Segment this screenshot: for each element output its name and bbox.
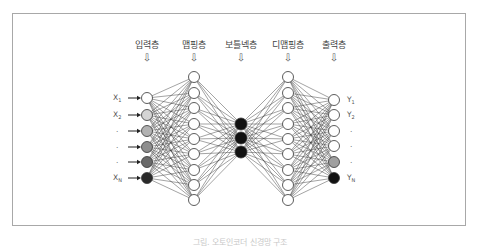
bottleneck-node [235, 146, 247, 158]
output-node [329, 95, 340, 106]
figure-caption: 그림. 오토인코더 신경망 구조 [0, 236, 480, 247]
output-label: · [350, 127, 352, 136]
bottleneck-node [235, 132, 247, 144]
layer-label-bottleneck: 보틀넥층 [225, 38, 257, 51]
mapping-node [189, 180, 200, 191]
input-label: · [116, 143, 118, 152]
down-arrow-icon: ⇩ [284, 53, 292, 63]
demapping-node [283, 119, 294, 130]
input-node [142, 173, 153, 184]
mapping-node [189, 88, 200, 99]
mapping-node [189, 119, 200, 130]
input-node [142, 157, 153, 168]
demapping-node [283, 72, 294, 83]
output-node [329, 173, 340, 184]
output-label: Y2 [347, 110, 355, 121]
output-node [329, 126, 340, 137]
down-arrow-icon: ⇩ [330, 53, 338, 63]
demapping-node [283, 165, 294, 176]
input-arrows [128, 96, 141, 180]
input-label: X1 [113, 93, 121, 104]
mapping-node [189, 103, 200, 114]
layer-label-demapping: 디맵핑층 [272, 38, 304, 51]
input-node [142, 126, 153, 137]
input-node [142, 93, 153, 104]
down-arrow-icon: ⇩ [143, 53, 151, 63]
mapping-node [189, 165, 200, 176]
down-arrow-icon: ⇩ [190, 53, 198, 63]
output-label: YN [347, 173, 355, 184]
layer-label-mapping: 맵핑층 [182, 38, 206, 51]
mapping-node [189, 149, 200, 160]
output-label: · [350, 142, 352, 151]
input-label: · [116, 158, 118, 167]
output-label: · [350, 158, 352, 167]
output-node [329, 110, 340, 121]
demapping-node [283, 195, 294, 206]
input-node [142, 142, 153, 153]
demapping-node [283, 134, 294, 145]
layer-label-output: 출력층 [322, 38, 346, 51]
down-arrow-icon: ⇩ [237, 53, 245, 63]
demapping-node [283, 103, 294, 114]
layer-label-input: 입력층 [135, 38, 159, 51]
output-node [329, 157, 340, 168]
demapping-node [283, 88, 294, 99]
output-node [329, 141, 340, 152]
mapping-node [189, 195, 200, 206]
mapping-node [189, 72, 200, 83]
demapping-node [283, 180, 294, 191]
input-label: · [116, 127, 118, 136]
input-label: XN [113, 173, 122, 184]
demapping-node [283, 149, 294, 160]
bottleneck-node [235, 118, 247, 130]
input-label: X2 [113, 110, 121, 121]
output-label: Y1 [347, 95, 355, 106]
input-node [142, 110, 153, 121]
mapping-node [189, 134, 200, 145]
neurons [142, 72, 340, 206]
